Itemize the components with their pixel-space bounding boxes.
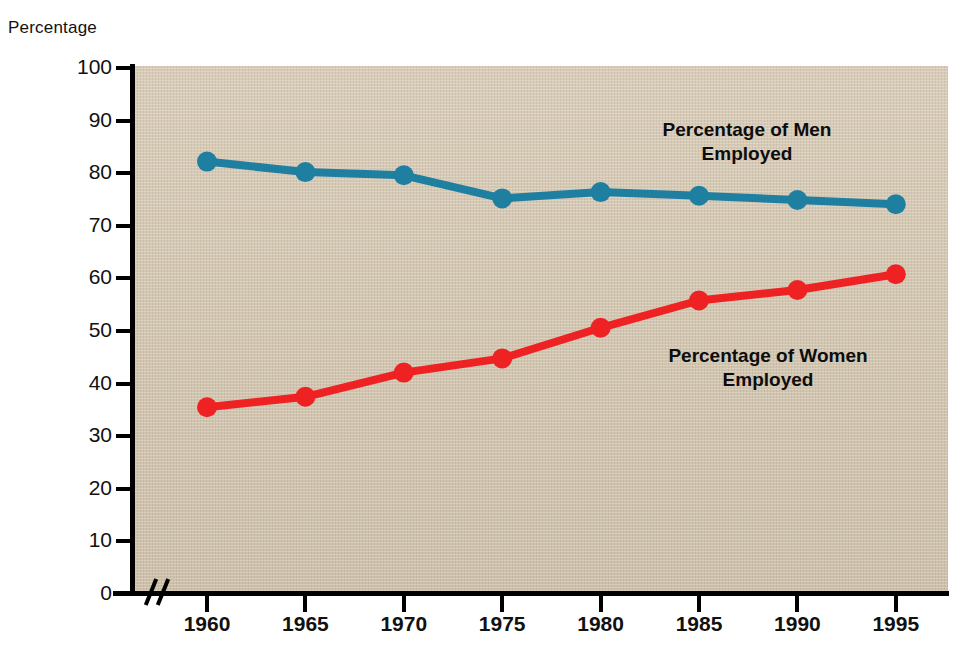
series-label-women-line1: Percentage of Women [638,344,898,368]
x-tick-1995 [894,595,898,612]
x-tick-label-1980: 1980 [556,612,646,636]
y-tick-label-60: 60 [40,265,112,289]
x-tick-1970 [402,595,406,612]
x-tick-1990 [795,595,799,612]
y-tick-label-40: 40 [40,371,112,395]
y-tick-90 [116,119,132,123]
x-tick-label-1970: 1970 [359,612,449,636]
series-label-men-line2: Employed [622,142,872,166]
x-tick-1975 [500,595,504,612]
x-tick-label-1995: 1995 [851,612,941,636]
series-label-men-line1: Percentage of Men [622,118,872,142]
y-tick-label-70: 70 [40,213,112,237]
series-label-women: Percentage of Women Employed [638,344,898,392]
y-tick-0 [116,592,132,596]
y-tick-label-100: 100 [40,55,112,79]
y-tick-label-10: 10 [40,528,112,552]
y-tick-50 [116,329,132,333]
y-tick-label-30: 30 [40,423,112,447]
y-tick-100 [116,66,132,70]
line-chart: Percentage 1009080706050403020100 196019… [0,0,972,652]
x-tick-label-1960: 1960 [162,612,252,636]
axis-break-icon [143,576,177,610]
y-tick-30 [116,434,132,438]
x-tick-label-1985: 1985 [654,612,744,636]
y-axis-title: Percentage [8,18,97,38]
y-tick-20 [116,487,132,491]
y-tick-80 [116,171,132,175]
y-tick-10 [116,539,132,543]
y-tick-70 [116,224,132,228]
y-tick-label-0: 0 [40,581,112,605]
y-tick-40 [116,382,132,386]
y-tick-label-80: 80 [40,160,112,184]
x-tick-1980 [599,595,603,612]
series-label-men: Percentage of Men Employed [622,118,872,166]
x-tick-label-1965: 1965 [260,612,350,636]
x-tick-1965 [303,595,307,612]
x-tick-1960 [205,595,209,612]
y-tick-label-20: 20 [40,476,112,500]
series-label-women-line2: Employed [638,368,898,392]
y-tick-60 [116,276,132,280]
x-axis-line [113,591,949,596]
x-tick-1985 [697,595,701,612]
x-tick-label-1975: 1975 [457,612,547,636]
x-tick-label-1990: 1990 [752,612,842,636]
y-tick-label-90: 90 [40,108,112,132]
y-tick-label-50: 50 [40,318,112,342]
